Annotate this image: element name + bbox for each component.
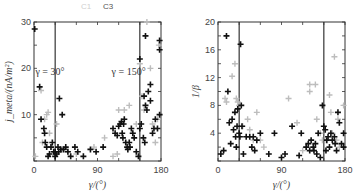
y-tick-label: 16 bbox=[205, 45, 215, 55]
y-tick-label: 12 bbox=[205, 73, 215, 83]
x-tick-label: 90 bbox=[92, 165, 102, 175]
y-tick-label: 30 bbox=[21, 17, 31, 27]
y-tick-label: 20 bbox=[21, 63, 31, 73]
series-c3 bbox=[218, 33, 347, 161]
annotation: γ = 30° bbox=[34, 66, 64, 77]
x-tick-label: 0 bbox=[215, 165, 220, 175]
figure: 090180102030γ/(°)j_meta/(nA/m²)γ = 30°γ … bbox=[0, 0, 354, 195]
x-tick-label: 0 bbox=[31, 165, 36, 175]
annotation: γ = 150° bbox=[111, 66, 146, 77]
y-axis-label: 1/β bbox=[190, 85, 201, 98]
series-c3 bbox=[32, 26, 163, 159]
x-axis-label: γ/(°) bbox=[273, 179, 291, 191]
y-tick-label: 4 bbox=[210, 128, 215, 138]
right-scatter-plot: 09018048121620γ/(°)1/β bbox=[190, 17, 353, 191]
y-tick-label: 10 bbox=[21, 110, 31, 120]
left-scatter-plot: 090180102030γ/(°)j_meta/(nA/m²)γ = 30°γ … bbox=[3, 17, 169, 191]
x-tick-label: 180 bbox=[337, 165, 352, 175]
y-tick-label: 8 bbox=[210, 100, 215, 110]
y-axis-label: j_meta/(nA/m²) bbox=[3, 60, 15, 123]
y-tick-label: 20 bbox=[205, 17, 215, 27]
x-tick-label: 90 bbox=[276, 165, 286, 175]
x-tick-label: 180 bbox=[153, 165, 168, 175]
x-axis-label: γ/(°) bbox=[89, 179, 107, 191]
